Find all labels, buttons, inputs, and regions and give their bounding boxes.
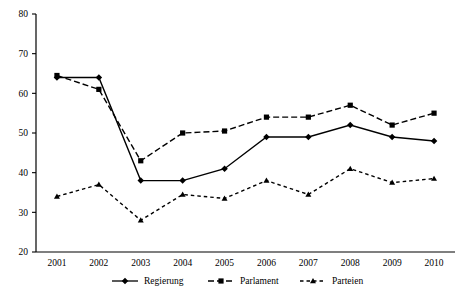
y-axis-tick-label: 20	[19, 247, 29, 257]
data-point-parlament-2002	[96, 87, 101, 92]
x-axis-tick-label: 2003	[131, 258, 150, 268]
data-point-regierung-2003	[138, 177, 145, 184]
legend-item-parlament: Parlament	[208, 276, 279, 286]
legend-label: Regierung	[144, 276, 184, 286]
data-point-parlament-2001	[54, 73, 59, 78]
x-axis-tick-label: 2007	[299, 258, 318, 268]
legend-item-parteien: Parteien	[300, 276, 363, 286]
series-line-regierung	[57, 77, 434, 180]
series-line-parteien	[57, 169, 434, 221]
data-point-parlament-2006	[264, 115, 269, 120]
y-axis: 20304050607080	[19, 9, 37, 257]
x-axis-tick-label: 2009	[383, 258, 402, 268]
series-parlament	[54, 73, 436, 163]
data-point-regierung-2004	[179, 177, 186, 184]
x-axis-tick-label: 2001	[47, 258, 66, 268]
data-point-parlament-2010	[431, 111, 436, 116]
data-point-parteien-2003	[138, 217, 144, 222]
x-axis-tick-label: 2004	[173, 258, 192, 268]
data-point-parlament-2003	[138, 158, 143, 163]
data-point-parteien-2002	[96, 182, 102, 187]
data-point-parlament-2004	[180, 130, 185, 135]
data-point-parteien-2006	[263, 178, 269, 183]
y-axis-tick-label: 30	[19, 208, 29, 218]
legend-item-regierung: Regierung	[112, 276, 184, 286]
series-line-parlament	[57, 75, 434, 160]
data-point-regierung-2010	[431, 138, 438, 145]
y-axis-tick-label: 40	[19, 168, 29, 178]
data-point-regierung-2008	[347, 122, 354, 129]
x-axis-tick-label: 2005	[215, 258, 234, 268]
x-axis-tick-label: 2006	[257, 258, 276, 268]
y-axis-tick-label: 70	[19, 49, 29, 59]
legend-marker-regierung	[122, 278, 129, 285]
data-point-parlament-2008	[348, 103, 353, 108]
y-axis-tick-label: 50	[19, 128, 29, 138]
line-chart-figure: 20304050607080 2001200220032004200520062…	[0, 0, 464, 293]
data-point-regierung-2002	[96, 74, 103, 81]
data-point-regierung-2009	[389, 134, 396, 141]
x-axis-tick-label: 2010	[425, 258, 444, 268]
legend-marker-parlament	[218, 278, 223, 283]
series-parteien	[54, 166, 437, 223]
y-axis-tick-label: 60	[19, 89, 29, 99]
data-point-parlament-2009	[390, 122, 395, 127]
data-point-parlament-2005	[222, 128, 227, 133]
data-point-parteien-2008	[347, 166, 353, 171]
x-axis: 2001200220032004200520062007200820092010	[36, 252, 455, 268]
data-point-regierung-2007	[305, 134, 312, 141]
series-regierung	[54, 74, 438, 184]
legend-label: Parlament	[240, 276, 279, 286]
legend-label: Parteien	[332, 276, 363, 286]
y-axis-tick-label: 80	[19, 9, 29, 19]
data-series-group	[54, 73, 438, 223]
x-axis-tick-label: 2002	[89, 258, 108, 268]
x-axis-tick-label: 2008	[341, 258, 360, 268]
chart-canvas: 20304050607080 2001200220032004200520062…	[0, 0, 464, 293]
data-point-parlament-2007	[306, 115, 311, 120]
data-point-parteien-2007	[305, 191, 311, 196]
chart-legend: RegierungParlamentParteien	[112, 276, 363, 286]
